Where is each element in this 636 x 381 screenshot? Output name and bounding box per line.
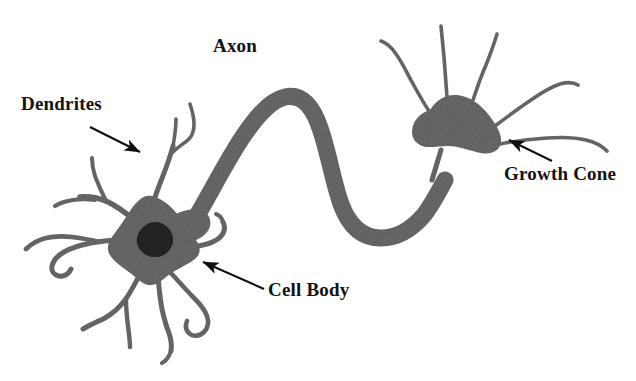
label-axon: Axon [213, 36, 257, 55]
axon-shaft [192, 96, 445, 238]
arrow-cell-body [203, 262, 264, 289]
label-growth-cone: Growth Cone [504, 164, 616, 183]
growth-cone-filopodia [381, 26, 607, 180]
label-dendrites: Dendrites [21, 94, 102, 113]
label-cell-body: Cell Body [268, 280, 350, 299]
neuron-figure: Axon Dendrites Growth Cone Cell Body [0, 0, 636, 381]
arrow-growth-cone [509, 140, 552, 161]
neuron-ink-group [26, 26, 607, 363]
neuron-illustration [0, 0, 636, 381]
arrow-dendrites [90, 127, 140, 152]
